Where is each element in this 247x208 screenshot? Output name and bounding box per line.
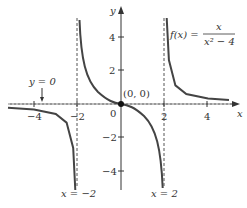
y-axis-label: y <box>109 5 116 16</box>
function-formula-prefix: f(x) = <box>169 29 199 40</box>
x-tick-label: 2 <box>161 111 167 122</box>
x-tick-label: 4 <box>204 111 210 122</box>
function-numerator: x <box>216 21 222 32</box>
x-tick-label: −4 <box>27 111 42 122</box>
vertical-asymptote-left-label: x = −2 <box>61 188 96 199</box>
origin-point <box>118 101 124 107</box>
vertical-asymptote-right-label: x = 2 <box>151 188 178 199</box>
y-tick-label: 2 <box>109 65 115 76</box>
x-axis-label: x <box>237 108 243 119</box>
y-tick-label: −4 <box>102 166 117 177</box>
function-graph: y x 0 (0, 0) −4 −2 2 4 4 2 −2 −4 y = 0 x… <box>0 0 247 208</box>
function-denominator: x² − 4 <box>204 36 235 47</box>
x-tick-label: −2 <box>70 111 85 122</box>
y-tick-label: 4 <box>109 32 115 43</box>
arrow-down-icon <box>40 97 44 102</box>
horizontal-asymptote-label: y = 0 <box>28 76 56 87</box>
y-tick-label: −2 <box>102 132 117 143</box>
point-label: (0, 0) <box>123 88 150 99</box>
x-axis-arrow-icon <box>232 101 240 107</box>
y-axis-arrow-icon <box>118 6 124 14</box>
origin-label: 0 <box>110 108 116 119</box>
